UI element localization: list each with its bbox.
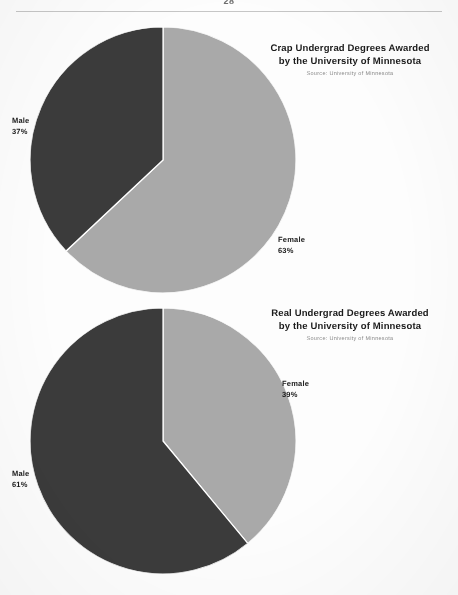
figure-real-undergrad-degrees: Real Undergrad Degrees Awarded by the Un…: [0, 302, 458, 587]
header-rule: [16, 11, 442, 12]
chart-title-line-2: by the University of Minnesota: [250, 320, 450, 333]
chart-title-line-2: by the University of Minnesota: [250, 55, 450, 68]
slice-label-female-name: Female: [278, 235, 305, 244]
slice-label-female: Female 63%: [278, 234, 305, 256]
slice-label-female-percent: 63%: [278, 245, 305, 256]
slice-label-male-name: Male: [12, 469, 29, 478]
slice-label-male-name: Male: [12, 116, 29, 125]
chart-title-block-crap: Crap Undergrad Degrees Awarded by the Un…: [250, 42, 450, 78]
chart-title-line-1: Real Undergrad Degrees Awarded: [250, 307, 450, 320]
slice-label-male: Male 37%: [12, 115, 29, 137]
figure-crap-undergrad-degrees: Crap Undergrad Degrees Awarded by the Un…: [0, 22, 458, 298]
pie-chart-real-degrees-svg: [30, 308, 296, 574]
page-number: 28: [0, 0, 458, 5]
slice-label-male: Male 61%: [12, 468, 29, 490]
slice-label-female: Female 39%: [282, 378, 309, 400]
slice-label-male-percent: 37%: [12, 126, 29, 137]
slice-label-male-percent: 61%: [12, 479, 29, 490]
slice-label-female-name: Female: [282, 379, 309, 388]
slice-label-female-percent: 39%: [282, 389, 309, 400]
chart-source-note: Source: University of Minnesota: [250, 336, 450, 343]
chart-source-note: Source: University of Minnesota: [250, 71, 450, 78]
pie-chart-real-degrees: [30, 308, 296, 574]
chart-title-block-real: Real Undergrad Degrees Awarded by the Un…: [250, 307, 450, 343]
scanned-page: 28 Crap Undergrad Degrees Awarded by the…: [0, 0, 458, 595]
chart-title-line-1: Crap Undergrad Degrees Awarded: [250, 42, 450, 55]
